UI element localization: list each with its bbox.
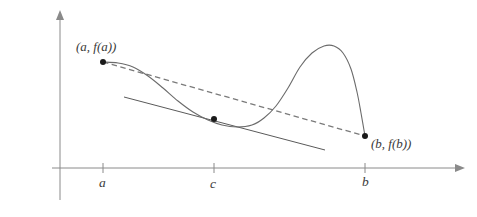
point-b-label: (b, f(b)) [371,137,411,150]
tangent-line [124,97,325,150]
marked-point [362,133,368,139]
marked-point [211,116,217,122]
tick-label-c: c [210,177,216,191]
y-axis-arrow-icon [56,10,64,20]
secant-line [103,62,365,136]
function-curve [103,45,365,136]
mean-value-theorem-figure: (a, f(a)) (b, f(b)) a c b [0,0,477,217]
point-a-label: (a, f(a)) [76,40,116,53]
marked-point [100,59,106,65]
tick-label-b: b [362,175,369,189]
tick-label-a: a [99,176,106,190]
x-axis-arrow-icon [455,164,465,172]
plot-canvas [0,0,477,217]
